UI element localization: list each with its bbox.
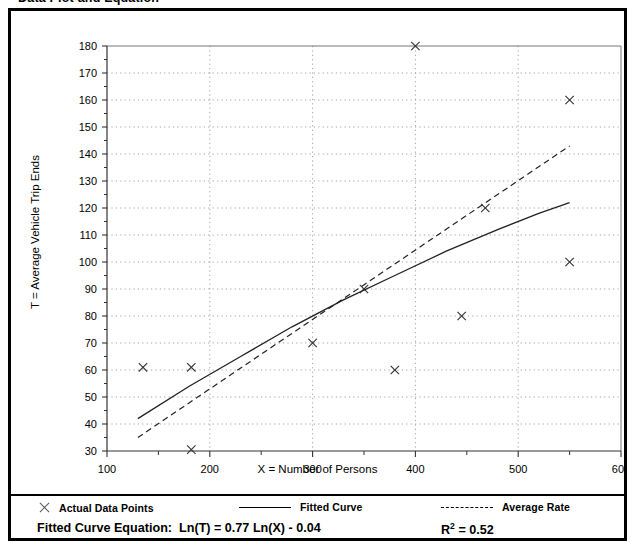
axis-lines — [107, 46, 621, 451]
chart-plot-area: 3040506070809010011012013014015016017018… — [11, 11, 624, 494]
x-axis-title: X = Number of Persons — [11, 463, 624, 475]
figure-frame: 3040506070809010011012013014015016017018… — [8, 8, 627, 541]
data-point-marker — [565, 96, 573, 104]
legend-item-fitted-curve: Fitted Curve — [239, 501, 362, 513]
data-point-marker — [565, 258, 573, 266]
svg-text:80: 80 — [85, 310, 97, 322]
legend-label: Actual Data Points — [59, 502, 154, 514]
y-axis-tick-labels: 3040506070809010011012013014015016017018… — [79, 40, 97, 457]
svg-text:130: 130 — [79, 175, 97, 187]
legend-item-average-rate: Average Rate — [441, 501, 570, 513]
legend-label: Fitted Curve — [300, 501, 362, 513]
figure-container: Data Plot and Equation 30405060708090100… — [0, 0, 637, 549]
svg-text:150: 150 — [79, 121, 97, 133]
r-squared-exponent: 2 — [450, 521, 455, 531]
svg-text:70: 70 — [85, 337, 97, 349]
legend-item-actual-data-points: Actual Data Points — [37, 501, 154, 514]
svg-text:90: 90 — [85, 283, 97, 295]
equation-formula: Ln(T) = 0.77 Ln(X) - 0.04 — [179, 521, 321, 535]
svg-text:100: 100 — [79, 256, 97, 268]
r-squared-value: R2 = 0.52 — [441, 521, 494, 537]
x-marker-icon — [37, 501, 50, 514]
svg-text:30: 30 — [85, 445, 97, 457]
r-squared-symbol: R — [441, 523, 450, 537]
scatter-chart: 3040506070809010011012013014015016017018… — [11, 11, 624, 494]
r-squared-number: = 0.52 — [458, 523, 493, 537]
data-series-layer — [138, 42, 574, 454]
svg-text:120: 120 — [79, 202, 97, 214]
equation-label: Fitted Curve Equation: — [37, 521, 172, 535]
axis-ticks — [102, 46, 621, 457]
svg-text:40: 40 — [85, 418, 97, 430]
svg-text:170: 170 — [79, 67, 97, 79]
figure-heading: Data Plot and Equation — [18, 0, 159, 5]
svg-text:140: 140 — [79, 148, 97, 160]
svg-text:160: 160 — [79, 94, 97, 106]
svg-text:110: 110 — [79, 229, 97, 241]
dashed-line-icon — [441, 507, 493, 508]
svg-text:60: 60 — [85, 364, 97, 376]
svg-text:180: 180 — [79, 40, 97, 52]
fitted-curve-equation: Fitted Curve Equation:Ln(T) = 0.77 Ln(X)… — [37, 521, 321, 535]
legend-label: Average Rate — [502, 501, 570, 513]
svg-text:50: 50 — [85, 391, 97, 403]
data-point-marker — [187, 445, 195, 453]
solid-line-icon — [239, 507, 291, 508]
grid-lines — [107, 46, 621, 451]
y-axis-title: T = Average Vehicle Trip Ends — [29, 122, 41, 342]
equation-row: Fitted Curve Equation:Ln(T) = 0.77 Ln(X)… — [11, 521, 624, 545]
